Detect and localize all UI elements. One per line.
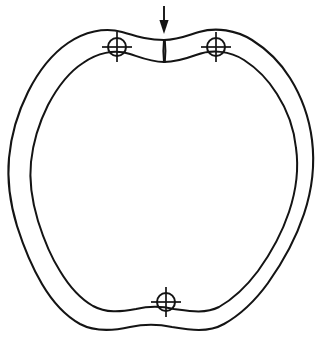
technical-diagram-figure: Lobed ring cross-section with load arrow… xyxy=(0,0,322,341)
top-center-notch xyxy=(163,40,165,62)
load-arrow-head xyxy=(159,20,168,34)
load-arrow xyxy=(159,6,168,34)
target-upper-left xyxy=(102,32,132,62)
notch-stem-right xyxy=(165,40,166,62)
inner-contour xyxy=(30,52,297,312)
outer-contour xyxy=(8,30,313,330)
notch-stem-left xyxy=(163,40,164,62)
target-bottom xyxy=(151,287,181,317)
target-upper-right xyxy=(201,32,231,62)
diagram-canvas xyxy=(0,0,322,341)
